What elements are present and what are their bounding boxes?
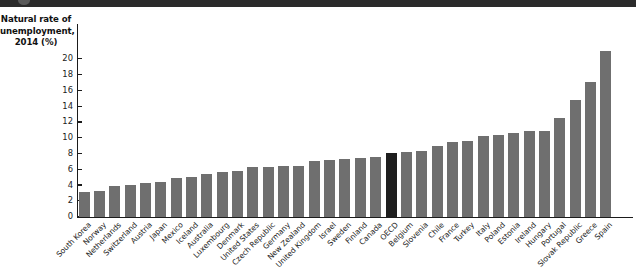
y-axis-tick-label: 4 bbox=[47, 180, 73, 190]
y-axis-tick-label: 6 bbox=[47, 164, 73, 174]
bar bbox=[217, 172, 228, 216]
bar bbox=[293, 166, 304, 217]
bar bbox=[339, 159, 350, 216]
y-axis-title-line: unemployment, bbox=[0, 26, 72, 38]
bar bbox=[201, 174, 212, 216]
bar bbox=[324, 160, 335, 217]
y-axis-tick-label: 2 bbox=[47, 195, 73, 205]
bar bbox=[585, 82, 596, 217]
bar bbox=[432, 146, 443, 216]
bar bbox=[401, 152, 412, 216]
y-axis-tick-label: 18 bbox=[47, 69, 73, 79]
bar bbox=[447, 142, 458, 217]
bar bbox=[370, 157, 381, 217]
y-axis-tick-label: 16 bbox=[47, 85, 73, 95]
y-axis-tick-label: 12 bbox=[47, 116, 73, 126]
bar bbox=[94, 191, 105, 217]
y-axis-tick-label: 10 bbox=[47, 132, 73, 142]
y-axis-tick-label: 0 bbox=[47, 211, 73, 221]
bar bbox=[125, 185, 136, 216]
bar bbox=[554, 118, 565, 217]
bar bbox=[186, 177, 197, 217]
x-axis-line bbox=[77, 217, 633, 218]
bar bbox=[508, 133, 519, 217]
bar bbox=[539, 131, 550, 217]
bar bbox=[355, 158, 366, 217]
bar bbox=[416, 151, 427, 217]
y-axis-tick-label: 20 bbox=[47, 53, 73, 63]
y-axis-title-line: Natural rate of bbox=[0, 14, 72, 26]
bar bbox=[171, 178, 182, 216]
y-axis-tick-label: 14 bbox=[47, 101, 73, 111]
bar bbox=[600, 51, 611, 217]
bar bbox=[247, 167, 258, 216]
y-axis-tick-label: 8 bbox=[47, 148, 73, 158]
bar bbox=[79, 192, 90, 216]
bar-chart-figure: Natural rate ofunemployment,2014 (%) 024… bbox=[0, 0, 636, 280]
bar bbox=[278, 166, 289, 217]
bar bbox=[524, 131, 535, 217]
y-axis-title-line: 2014 (%) bbox=[0, 37, 72, 49]
x-axis-labels: South KoreaNorwayNetherlandsSwitzerlandA… bbox=[79, 219, 633, 279]
bar bbox=[309, 161, 320, 217]
bar bbox=[386, 153, 397, 217]
bar bbox=[263, 167, 274, 216]
bar bbox=[155, 182, 166, 216]
bar bbox=[478, 136, 489, 217]
bar bbox=[462, 141, 473, 216]
bars-layer bbox=[79, 47, 633, 217]
bar bbox=[570, 100, 581, 216]
bar bbox=[493, 135, 504, 217]
bar bbox=[232, 171, 243, 217]
bar bbox=[140, 183, 151, 217]
y-axis-title: Natural rate ofunemployment,2014 (%) bbox=[0, 14, 72, 49]
bar bbox=[109, 186, 120, 216]
